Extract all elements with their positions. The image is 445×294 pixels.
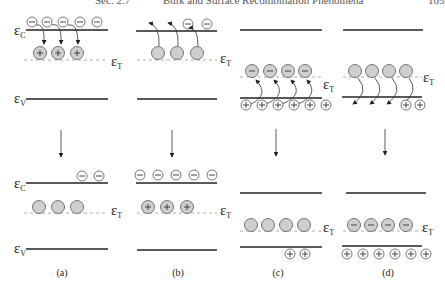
et-label: εT <box>111 53 122 71</box>
panel-a-after: εC εT εV <box>14 171 122 258</box>
panel-d-before: εT <box>342 30 434 110</box>
svg-text:εT: εT <box>422 219 433 237</box>
caption-a: (a) <box>56 267 67 279</box>
svg-text:εT: εT <box>323 76 334 94</box>
panel-d-after: εT <box>342 193 433 259</box>
recombination-diagram: εC εT εV εT <box>0 0 445 294</box>
svg-text:εV: εV <box>14 240 26 258</box>
ec-label: εC <box>14 22 26 40</box>
panel-b-after: εT <box>135 170 231 250</box>
caption-b: (b) <box>172 267 184 279</box>
transition-arrows <box>61 129 385 157</box>
panel-c-before: εT <box>240 30 334 110</box>
electrons <box>27 17 102 27</box>
ev-label: εV <box>14 90 26 108</box>
svg-text:εC: εC <box>14 175 26 193</box>
svg-text:εT: εT <box>323 219 334 237</box>
caption-c: (c) <box>272 267 283 279</box>
panel-c-after: εT <box>240 193 334 259</box>
svg-text:εT: εT <box>111 202 122 220</box>
svg-text:εT: εT <box>220 50 231 68</box>
traps-positive <box>34 47 84 60</box>
panel-b-before: εT <box>136 19 231 99</box>
caption-d: (d) <box>382 267 394 279</box>
svg-text:εT: εT <box>220 202 231 220</box>
svg-text:εT: εT <box>423 69 434 87</box>
panel-a-before: εC εT εV <box>14 17 122 108</box>
